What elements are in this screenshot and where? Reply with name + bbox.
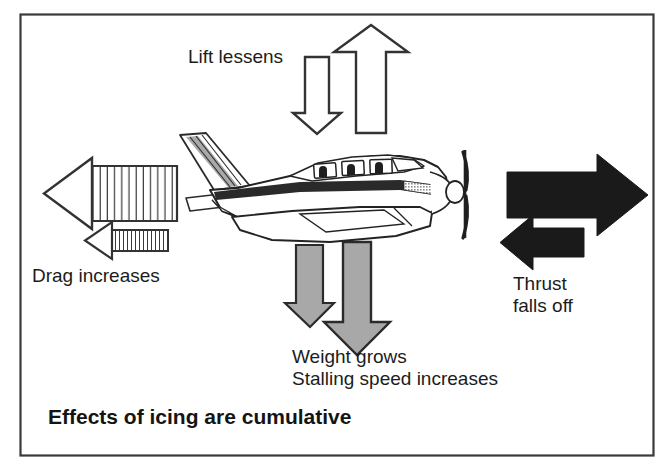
passenger-silhouette-3 xyxy=(375,162,383,173)
lift-label: Lift lessens xyxy=(188,46,283,67)
drag-nominal-shaft xyxy=(90,166,177,221)
thrust-label-line1: Thrust xyxy=(513,273,568,294)
icing-effects-diagram: Lift lessens Drag increases Thrust falls xyxy=(0,0,671,473)
propeller-spinner xyxy=(446,181,464,203)
caption-title: Effects of icing are cumulative xyxy=(48,405,351,428)
passenger-silhouette-2 xyxy=(347,164,355,175)
weight-label-line1: Weight grows xyxy=(292,346,407,367)
weight-label-line2: Stalling speed increases xyxy=(292,368,498,389)
diagram-canvas: Lift lessens Drag increases Thrust falls xyxy=(0,0,671,473)
thrust-label-line2: falls off xyxy=(513,295,574,316)
drag-label: Drag increases xyxy=(32,265,160,286)
drag-degraded-shaft xyxy=(111,230,168,251)
passenger-silhouette-1 xyxy=(319,166,327,177)
